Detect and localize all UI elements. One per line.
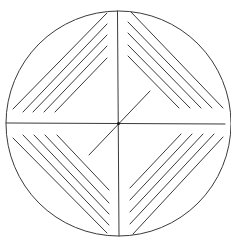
hatched-circle-diagram bbox=[0, 0, 231, 247]
diagram-svg bbox=[0, 0, 231, 247]
center-point bbox=[117, 122, 120, 125]
